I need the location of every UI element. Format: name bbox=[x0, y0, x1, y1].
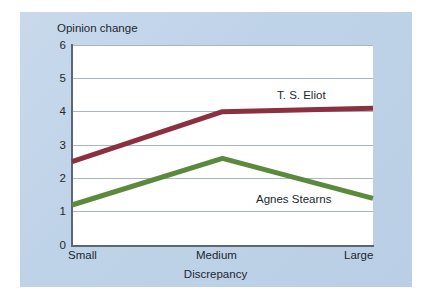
series-lines bbox=[0, 0, 431, 304]
series-line-t-s-eliot bbox=[72, 108, 373, 161]
series-label-t-s-eliot: T. S. Eliot bbox=[277, 89, 326, 101]
chart-figure: 6 5 4 3 2 1 0 Opinion change Discrepancy… bbox=[0, 0, 431, 304]
series-label-agnes-stearns: Agnes Stearns bbox=[256, 193, 331, 205]
